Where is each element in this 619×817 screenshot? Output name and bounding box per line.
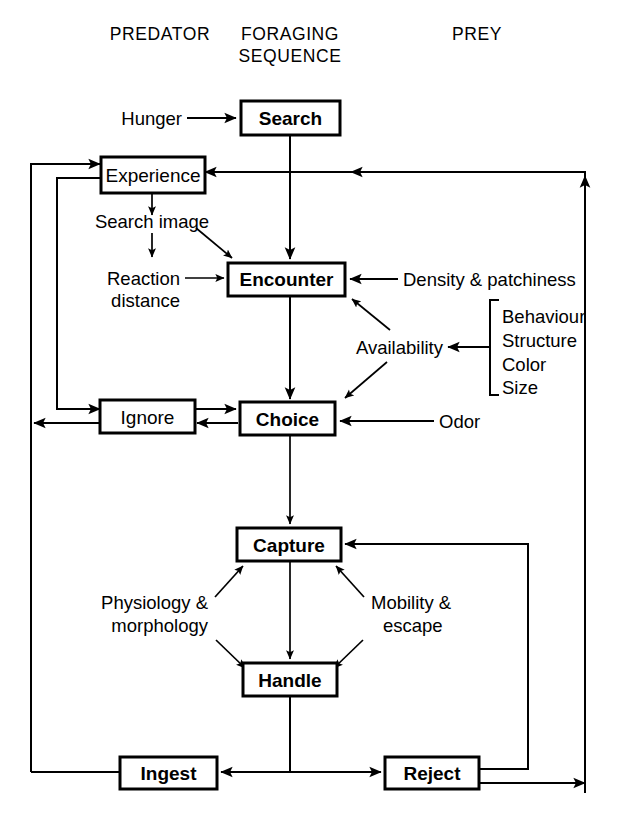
edge-availability-to-choice — [345, 362, 387, 398]
prey-trait-structure: Structure — [502, 330, 577, 351]
edge-left-outer-to-experience — [31, 164, 100, 772]
edge-mobility-to-capture — [336, 566, 364, 597]
node-ingest-label: Ingest — [141, 763, 198, 784]
edge-physiology-to-capture — [215, 566, 243, 597]
prey-traits-bracket — [490, 300, 499, 395]
annotation-physiology-line2: morphology — [111, 615, 208, 636]
node-reject-label: Reject — [403, 763, 461, 784]
node-capture-label: Capture — [253, 535, 325, 556]
annotation-odor: Odor — [439, 411, 480, 432]
node-handle-label: Handle — [258, 670, 321, 691]
annotation-density-patchiness: Density & patchiness — [403, 269, 576, 290]
edge-search-image-to-encounter — [196, 228, 232, 258]
edge-availability-to-encounter — [352, 299, 390, 330]
diagram-canvas: PREDATOR FORAGING SEQUENCE PREY — [0, 0, 619, 817]
prey-trait-size: Size — [502, 377, 538, 398]
annotation-physiology-line1: Physiology & — [101, 592, 209, 613]
prey-trait-color: Color — [502, 354, 546, 375]
annotation-reaction-distance-line1: Reaction — [107, 268, 180, 289]
node-choice-label: Choice — [256, 409, 319, 430]
node-ignore-label: Ignore — [121, 407, 175, 428]
foraging-sequence-diagram: PREDATOR FORAGING SEQUENCE PREY — [0, 0, 619, 817]
annotation-mobility-line1: Mobility & — [371, 592, 452, 613]
column-header-predator: PREDATOR — [110, 24, 210, 44]
annotation-hunger: Hunger — [121, 108, 182, 129]
column-header-prey: PREY — [452, 24, 502, 44]
prey-trait-behaviour: Behaviour — [502, 306, 585, 327]
node-encounter-label: Encounter — [240, 269, 335, 290]
node-experience-label: Experience — [105, 165, 200, 186]
edge-right-feedback-to-experience — [351, 172, 585, 793]
node-search-label: Search — [259, 108, 322, 129]
edge-physiology-to-handle — [216, 640, 245, 668]
edge-reject-to-capture — [345, 544, 528, 769]
annotation-search-image: Search image — [95, 211, 209, 232]
annotation-availability: Availability — [356, 337, 444, 358]
annotation-reaction-distance-line2: distance — [111, 290, 180, 311]
column-header-foraging-line1: FORAGING — [241, 24, 339, 44]
column-header-foraging-line2: SEQUENCE — [238, 46, 341, 66]
annotation-mobility-line2: escape — [383, 615, 443, 636]
